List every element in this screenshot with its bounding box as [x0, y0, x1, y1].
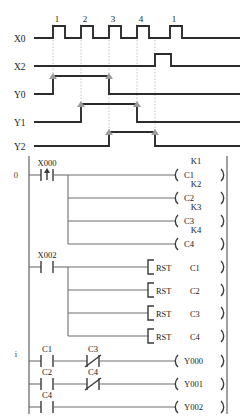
- preset-k2: K2: [191, 179, 202, 189]
- output-rung-y002[interactable]: Y002: [29, 401, 224, 413]
- step-number-first: 0: [14, 170, 18, 180]
- waveform-y2: [34, 132, 240, 146]
- instruction-op: RST: [156, 287, 171, 296]
- instruction-operand: C4: [190, 333, 201, 342]
- pulse-number: 2: [83, 14, 88, 24]
- signal-label-y0: Y0: [14, 90, 26, 100]
- instruction-operand: C2: [190, 287, 200, 296]
- contact-label-c3: C3: [88, 344, 98, 354]
- contact-x002[interactable]: [29, 261, 68, 273]
- coil-label-y000: Y000: [184, 356, 203, 366]
- instruction-operand: C1: [190, 264, 200, 273]
- contact-c2-no[interactable]: [41, 378, 53, 390]
- contact-c1-no[interactable]: [41, 355, 53, 367]
- pulse-number-row: 1 2 3 4 1: [55, 14, 177, 24]
- contact-label-c4: C4: [88, 367, 99, 377]
- coil-label-c4: C4: [184, 239, 195, 249]
- step-number-second: i: [15, 349, 18, 359]
- coil-c4[interactable]: C4: [175, 238, 223, 250]
- rising-edge-arrow-icon: [44, 168, 50, 173]
- contact-x000-rising-edge[interactable]: [29, 168, 68, 181]
- preset-k4: K4: [191, 225, 202, 235]
- instruction-rst-c1[interactable]: RST C1: [148, 260, 224, 274]
- signal-label-x0: X0: [14, 34, 26, 44]
- instruction-rst-c2[interactable]: RST C2: [148, 283, 224, 297]
- instruction-op: RST: [156, 333, 171, 342]
- instruction-rst-c4[interactable]: RST C4: [148, 329, 224, 343]
- output-rung-y000[interactable]: Y000: [29, 355, 224, 367]
- instruction-operand: C3: [190, 310, 200, 319]
- pulse-number: 3: [111, 14, 116, 24]
- instruction-op: RST: [156, 310, 171, 319]
- preset-k1: K1: [191, 156, 202, 166]
- contact-label-x000: X000: [37, 158, 56, 168]
- waveform-x0: [34, 26, 240, 38]
- pulse-number: 1: [55, 14, 60, 24]
- preset-k3: K3: [191, 202, 202, 212]
- ladder-diagram: 0 i X000 C1 K1: [0, 152, 248, 420]
- coil-label-y002: Y002: [184, 402, 203, 412]
- contact-c4-nc[interactable]: [85, 378, 101, 390]
- plc-diagram-sheet: 1 2 3 4 1 X0 X2 Y0 Y1 Y2: [0, 0, 248, 420]
- signal-label-y1: Y1: [14, 118, 26, 128]
- pulse-number: 1: [172, 14, 177, 24]
- timing-diagram: 1 2 3 4 1 X0 X2 Y0 Y1 Y2: [0, 0, 248, 152]
- output-rung-y001[interactable]: Y001: [29, 378, 224, 390]
- contact-c3-nc[interactable]: [85, 355, 101, 367]
- contact-label-c4-second: C4: [42, 390, 53, 400]
- instruction-op: RST: [156, 264, 171, 273]
- signal-label-y2: Y2: [14, 142, 26, 152]
- coil-label-y001: Y001: [184, 379, 203, 389]
- contact-label-c1: C1: [42, 344, 52, 354]
- contact-label-c2: C2: [42, 367, 52, 377]
- signal-label-x2: X2: [14, 62, 26, 72]
- pulse-number: 4: [139, 14, 144, 24]
- contact-c4-no[interactable]: [41, 401, 53, 413]
- timing-guides: [53, 24, 155, 131]
- instruction-rst-c3[interactable]: RST C3: [148, 306, 224, 320]
- contact-label-x002: X002: [37, 250, 56, 260]
